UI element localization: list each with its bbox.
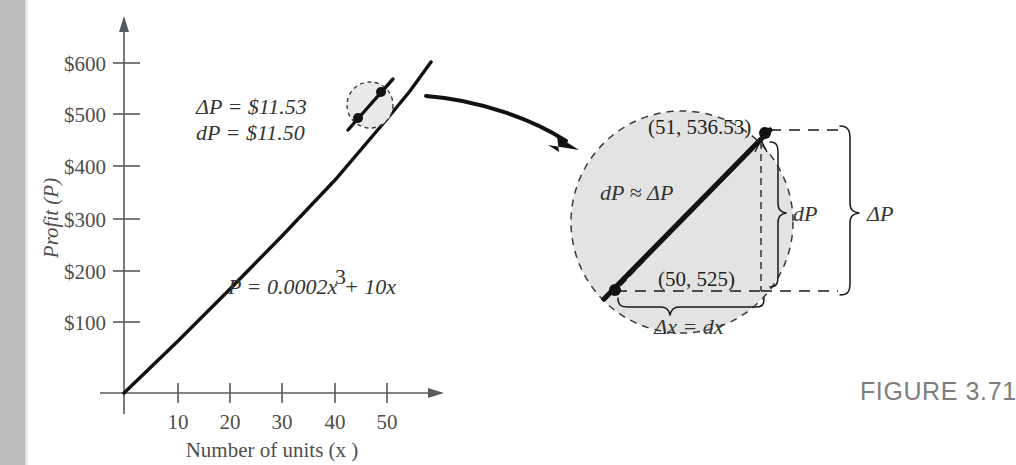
x-tick-label-30: 30 bbox=[272, 410, 293, 434]
x-tick-label-50: 50 bbox=[377, 410, 398, 434]
coord-label-upper: (51, 536.53) bbox=[648, 115, 751, 139]
plot-axes bbox=[100, 16, 444, 414]
coord-label-lower: (50, 525) bbox=[658, 267, 735, 291]
figure-canvas: $600 $500 $400 $300 $200 $100 10 20 30 4… bbox=[0, 0, 1016, 465]
y-axis-title: Profit (P) bbox=[39, 178, 63, 259]
x-tick-label-20: 20 bbox=[220, 410, 241, 434]
approximation-label: dP ≈ ΔP bbox=[600, 180, 673, 205]
y-tick-label-300: $300 bbox=[64, 208, 106, 232]
callout-arrow bbox=[426, 96, 579, 152]
y-tick-label-100: $100 bbox=[64, 311, 106, 335]
x-axis-title: Number of units (x ) bbox=[186, 438, 359, 462]
profit-equation: P = 0.0002x 3 + 10x bbox=[227, 264, 396, 299]
y-axis-tick-labels: $600 $500 $400 $300 $200 $100 bbox=[64, 52, 106, 335]
y-tick-label-400: $400 bbox=[64, 155, 106, 179]
point-50-525-small bbox=[353, 113, 363, 123]
x-tick-label-40: 40 bbox=[325, 410, 346, 434]
x-axis-arrowhead bbox=[428, 388, 444, 398]
delta-p-brace bbox=[840, 126, 859, 295]
equation-suffix: + 10x bbox=[344, 274, 396, 299]
annotation-delta-p: ΔP = $11.53 bbox=[195, 94, 307, 119]
delta-p-brace-label: ΔP bbox=[866, 201, 893, 226]
equation-prefix: P = 0.0002x bbox=[227, 274, 337, 299]
point-51-536-small bbox=[376, 87, 386, 97]
delta-x-brace-label: Δx = dx bbox=[653, 314, 724, 339]
dp-brace-label: dP bbox=[793, 201, 817, 226]
y-tick-label-200: $200 bbox=[64, 260, 106, 284]
y-axis-ticks bbox=[113, 63, 140, 322]
figure-caption: FIGURE 3.71 bbox=[860, 377, 1016, 405]
y-tick-label-600: $600 bbox=[64, 52, 106, 76]
figure-page: $600 $500 $400 $300 $200 $100 10 20 30 4… bbox=[0, 0, 1016, 465]
callout-arrow-shaft bbox=[426, 96, 566, 141]
delta-p-brace-group: ΔP bbox=[840, 126, 893, 295]
x-tick-label-10: 10 bbox=[168, 410, 189, 434]
annotation-dp: dP = $11.50 bbox=[196, 120, 305, 145]
point-51-536 bbox=[759, 127, 771, 139]
y-axis-arrowhead bbox=[119, 16, 129, 32]
x-axis-tick-labels: 10 20 30 40 50 bbox=[168, 410, 398, 434]
y-tick-label-500: $500 bbox=[64, 103, 106, 127]
point-50-525 bbox=[609, 284, 621, 296]
